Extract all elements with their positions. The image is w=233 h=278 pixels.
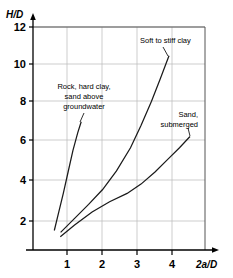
x-tick-label-3: 3 (134, 258, 140, 270)
annotation-soft-to-stiff-clay: Soft to stiff clay (140, 36, 191, 45)
annotation-sand-line-1: Sand, (178, 110, 198, 119)
chart-background (0, 0, 233, 278)
annotation-clay-line-1: Soft to stiff clay (140, 36, 191, 45)
y-tick-label-12: 12 (14, 21, 26, 33)
x-tick-label-4: 4 (169, 258, 176, 270)
y-tick-label-8: 8 (20, 95, 26, 107)
x-axis-title: 2a/D (195, 259, 217, 270)
annotation-rock-hard-clay: Rock, hard clay, sand above groundwater (57, 82, 110, 111)
chart-svg: 12 10 8 6 4 2 1 2 3 4 H/D 2a/D Rock, har… (0, 0, 233, 278)
x-tick-label-2: 2 (99, 258, 105, 270)
y-tick-label-2: 2 (20, 215, 26, 227)
annotation-rock-line-1: Rock, hard clay, (57, 82, 110, 91)
y-axis-title: H/D (6, 9, 23, 20)
annotation-rock-line-3: groundwater (63, 102, 105, 111)
y-tick-label-10: 10 (14, 58, 26, 70)
x-tick-label-1: 1 (64, 258, 70, 270)
annotation-sand-line-2: submerged (160, 120, 198, 129)
chart-figure: 12 10 8 6 4 2 1 2 3 4 H/D 2a/D Rock, har… (0, 0, 233, 278)
y-tick-label-4: 4 (20, 174, 27, 186)
annotation-rock-line-2: sand above (65, 92, 104, 101)
y-tick-label-6: 6 (20, 134, 26, 146)
